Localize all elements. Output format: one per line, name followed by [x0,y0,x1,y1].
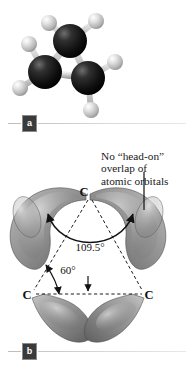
orbital-lobe-bottom [32,294,144,342]
bent-bond-orbital-diagram-svg: C C C 109.5° 60° [0,148,194,348]
carbon-label-bottom-left: C [22,288,31,302]
carbon-atom [71,61,105,95]
angle-arc-60 [46,265,59,294]
orbital-lobe-upper-right [90,188,168,270]
chemistry-figure: a No “head-on” overlap of atomic orbital… [0,0,194,372]
angle-label-109-5: 109.5° [75,241,104,253]
carbon-atom [28,55,62,89]
carbon-atom [53,24,87,58]
hydrogen-atom [83,102,99,118]
panel-b-orbital-overlap: C C C 109.5° 60° b [0,148,194,348]
panel-a-badge: a [22,115,37,132]
carbon-label-top: C [79,185,88,199]
carbon-label-bottom-right: C [144,288,153,302]
orbital-lobe-group [8,188,168,342]
angle-label-60: 60° [60,264,75,276]
panel-b-badge: b [22,343,37,360]
carbon-atom-group [28,24,105,95]
hydrogen-atom [88,13,104,29]
hydrogen-atom [107,54,123,70]
panel-b-caption-rule: b [8,346,186,358]
angle-label-group: 109.5° 60° [60,241,104,276]
orbital-lobe-upper-left [8,188,86,270]
panel-a-ball-and-stick: a [0,0,194,132]
angle-arc-109 [48,214,133,243]
panel-a-caption-rule: a [8,118,186,130]
cyclopropane-ball-and-stick-svg [0,0,194,132]
hydrogen-atom [41,15,57,31]
hydrogen-atom [21,36,37,52]
hydrogen-atom [12,80,28,96]
